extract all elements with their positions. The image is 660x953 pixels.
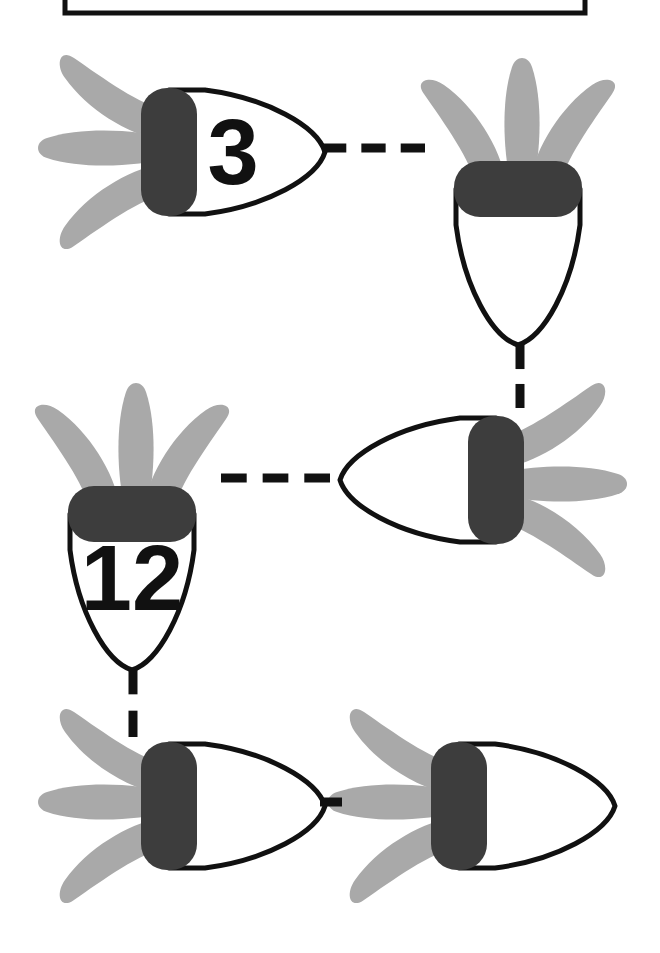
token-shape-6[interactable] xyxy=(328,709,615,903)
token-shape-2[interactable] xyxy=(421,58,615,345)
token-shape-1[interactable] xyxy=(38,55,325,249)
token-number-label: 12 xyxy=(81,527,183,629)
token-band xyxy=(454,161,582,217)
top-frame-box xyxy=(65,0,585,13)
token-band xyxy=(141,88,197,216)
token-band xyxy=(468,416,524,544)
token-band xyxy=(431,742,487,870)
diagram-svg: 312 xyxy=(0,0,660,953)
token-band xyxy=(141,742,197,870)
token-number-label: 3 xyxy=(207,101,258,203)
token-shape-5[interactable] xyxy=(38,709,325,903)
diagram-canvas: 312 xyxy=(0,0,660,953)
token-shape-4[interactable] xyxy=(340,383,627,577)
